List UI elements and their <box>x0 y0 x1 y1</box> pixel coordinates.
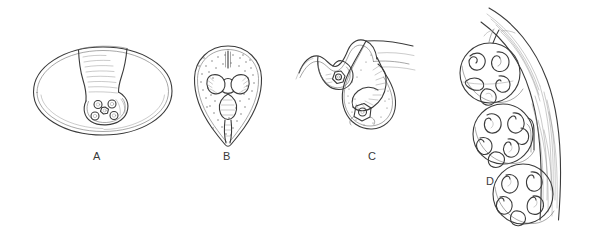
panel-d-protoscolex <box>477 137 492 154</box>
panel-b-sucker-bridge <box>224 79 232 81</box>
panel-c-pouch-large-inner <box>344 46 392 126</box>
panel-c-rosette-small-core <box>336 74 342 80</box>
panel-c-body-segment <box>373 66 379 70</box>
panel-a-rostellum <box>101 107 109 114</box>
panel-a-neck-hatching <box>89 92 118 93</box>
panel-a-neck-hatching <box>85 66 113 67</box>
panel-b-sucker-bridge-lower <box>223 92 234 94</box>
panel-c-surface-membrane <box>299 40 377 73</box>
panel-c-membrane-right-hair <box>380 67 415 70</box>
panel-a-drawing <box>34 46 173 135</box>
panel-b-sucker-left-hatch <box>214 92 217 94</box>
panel-c-pouch-small <box>318 56 353 90</box>
panel-c-membrane-wisp <box>296 59 313 80</box>
panel-d-protoscolex-detail <box>508 179 511 186</box>
panel-c-body-segment <box>375 71 382 75</box>
panel-d-capsule-septum <box>463 81 513 84</box>
panel-b-sucker-right-hatch <box>244 81 248 84</box>
panel-a-sucker-inner <box>96 103 99 106</box>
panel-b-sucker-right-hatch <box>239 92 242 94</box>
panel-a-neck-hatching <box>88 81 116 82</box>
panel-a-rostellum-center <box>103 109 106 112</box>
panel-d-protoscolex-detail <box>491 120 493 128</box>
panel-a-neck-left-wall <box>79 50 87 102</box>
panel-a-sucker-inner <box>112 114 115 117</box>
panel-b-drawing <box>194 46 261 146</box>
panel-a-sucker <box>91 112 99 120</box>
panel-d-brood-capsule <box>493 164 553 224</box>
panel-label-c: C <box>368 150 376 162</box>
panel-c-body-segment <box>369 99 378 100</box>
panel-a-sucker <box>110 112 118 120</box>
panel-a-neck-right-wall <box>119 49 128 93</box>
panel-b-sucker-left <box>207 75 225 94</box>
panel-b-sucker-left-hatch <box>209 81 213 84</box>
panel-c-rosette-large-core <box>359 108 367 116</box>
panel-d-protoscolex <box>526 172 542 191</box>
panel-d-brood-capsule-inner-line <box>495 187 554 224</box>
panel-a-sucker-inner <box>93 114 96 117</box>
panel-d-protoscolex <box>517 128 529 144</box>
panel-d-protoscolex-detail <box>509 145 512 152</box>
panel-d-protoscolex-detail <box>534 200 537 207</box>
panel-c-body-segment <box>376 77 384 80</box>
panel-d-protoscolex <box>502 175 518 193</box>
panel-b-central-body <box>219 94 236 120</box>
panel-label-b: B <box>223 150 231 162</box>
figure-canvas: A B C D <box>0 0 605 228</box>
panel-c-drawing <box>296 40 415 129</box>
panel-a-outer-membrane-inner-line <box>37 51 169 132</box>
line-drawing-svg <box>0 0 605 228</box>
panel-c-rosette-small-hatch <box>326 74 331 75</box>
panel-a-sucker <box>94 101 102 109</box>
panel-b-sucker-right <box>231 75 249 94</box>
panel-d-drawing <box>460 8 561 226</box>
panel-d-protoscolex <box>484 114 501 133</box>
panel-d-protoscolex <box>496 76 510 92</box>
panel-d-protoscolex-detail <box>498 58 501 66</box>
panel-b-sucker-right-hatch <box>243 78 247 82</box>
panel-a-neck-hatching <box>89 87 118 88</box>
panel-c-surface-membrane-right <box>366 41 413 46</box>
panel-b-sucker-left-hatch <box>210 89 214 91</box>
panel-c-rosette-large-petal <box>370 117 375 125</box>
panel-a-neck-hatching <box>84 60 110 62</box>
panel-d-protoscolex <box>469 53 485 70</box>
panel-d-protoscolex <box>508 113 524 133</box>
panel-c-rosette-small-center <box>337 76 339 78</box>
panel-c-rosette-small-hatch <box>327 82 332 83</box>
panel-d-protoscolex <box>492 52 509 72</box>
panel-d-brood-capsule-inner-line <box>462 66 523 103</box>
panel-c-membrane-right-hair <box>378 53 414 56</box>
panel-label-a: A <box>93 150 101 162</box>
panel-a-neck-hatching <box>87 76 115 77</box>
panel-a-neck-hatching <box>86 71 114 72</box>
panel-d-protoscolex <box>496 197 512 215</box>
panel-a-inner-sac <box>84 92 128 125</box>
panel-a-sucker <box>108 100 116 108</box>
panel-c-rosette-small <box>333 71 346 84</box>
panel-a-neck-hatching <box>83 55 106 57</box>
panel-a-sucker-inner <box>110 102 113 105</box>
panel-b-sucker-right-hatch <box>242 89 246 91</box>
panel-b-sucker-left-hatch <box>208 85 212 88</box>
panel-d-protoscolex-detail <box>486 93 492 97</box>
panel-c-rosette-large <box>354 104 371 122</box>
panel-d-brood-capsule <box>460 43 520 103</box>
panel-c-body-segment <box>376 83 385 85</box>
panel-c-rosette-small-hatch <box>326 79 332 80</box>
panel-label-d: D <box>486 175 494 187</box>
